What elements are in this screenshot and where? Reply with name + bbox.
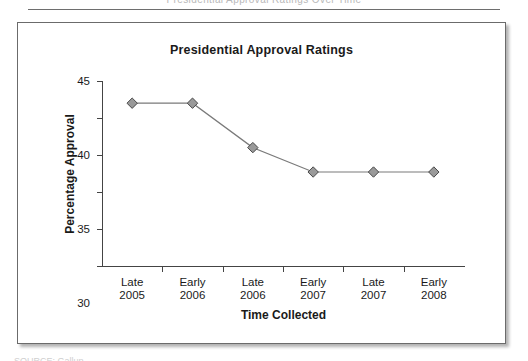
- x-axis-tick: [283, 266, 284, 272]
- data-point-marker: [248, 142, 258, 152]
- chart-figure-frame: Presidential Approval Ratings Percentage…: [17, 22, 506, 344]
- x-axis-tick: [162, 266, 163, 272]
- approval-line-series: [102, 81, 464, 266]
- x-axis-tick-label-line: Early: [421, 276, 447, 289]
- x-axis-tick-label-line: Early: [179, 276, 205, 289]
- top-horizontal-rule: [28, 9, 500, 10]
- x-axis-tick-label-line: Late: [240, 276, 266, 289]
- y-axis-tick-label: 35: [77, 223, 90, 235]
- x-axis-tick-label-line: 2007: [361, 289, 387, 302]
- x-axis-tick: [223, 266, 224, 272]
- x-axis-tick: [343, 266, 344, 272]
- data-point-marker: [187, 98, 197, 108]
- x-axis-tick-label: Late2005: [119, 276, 145, 302]
- figure-page: Presidential Approval Ratings Over Time …: [0, 0, 528, 361]
- footer-note-text: SOURCE: Gallup: [14, 356, 314, 361]
- running-head: Presidential Approval Ratings Over Time: [0, 0, 528, 6]
- x-axis-tick-label: Late2006: [240, 276, 266, 302]
- x-axis-tick-label: Early2007: [300, 276, 326, 302]
- x-axis-tick-label-line: 2005: [119, 289, 145, 302]
- data-point-marker: [368, 167, 378, 177]
- chart-title: Presidential Approval Ratings: [18, 43, 505, 57]
- data-point-marker: [308, 167, 318, 177]
- x-axis-tick-label-line: Early: [300, 276, 326, 289]
- plot-area: 202530354045 Late2005Early2006Late2006Ea…: [102, 81, 464, 266]
- y-axis-title-text: Percentage Approval: [63, 114, 77, 234]
- footer-note: SOURCE: Gallup: [14, 356, 314, 361]
- y-axis-tick-label: 30: [77, 297, 90, 309]
- x-axis-tick-label-line: 2006: [179, 289, 205, 302]
- x-axis-title: Time Collected: [102, 308, 465, 322]
- data-point-marker: [429, 167, 439, 177]
- x-axis-tick-label: Early2008: [421, 276, 447, 302]
- y-axis-title: Percentage Approval: [62, 81, 78, 267]
- x-axis-tick-label: Early2006: [179, 276, 205, 302]
- x-axis-tick-label-line: 2008: [421, 289, 447, 302]
- y-axis-tick-label: 40: [77, 149, 90, 161]
- x-axis-tick-label: Late2007: [361, 276, 387, 302]
- x-axis-tick-label-line: 2006: [240, 289, 266, 302]
- x-axis-tick-label-line: Late: [119, 276, 145, 289]
- y-axis-tick-label: 45: [77, 75, 90, 87]
- x-axis-tick-label-line: Late: [361, 276, 387, 289]
- y-axis-tick: 20: [97, 266, 103, 267]
- x-axis-tick-label-line: 2007: [300, 289, 326, 302]
- series-line: [132, 103, 434, 172]
- running-head-text: Presidential Approval Ratings Over Time: [0, 0, 528, 5]
- data-point-marker: [127, 98, 137, 108]
- x-axis-tick: [404, 266, 405, 272]
